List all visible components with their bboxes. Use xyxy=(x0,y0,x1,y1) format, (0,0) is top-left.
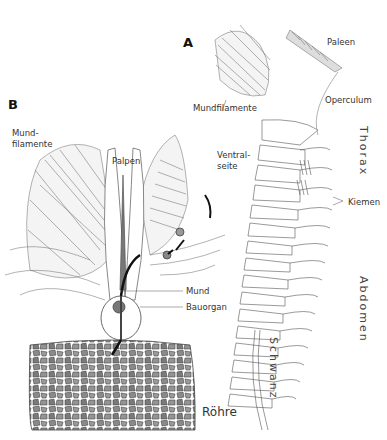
panel-a-crown xyxy=(215,25,342,135)
label-roehre: Röhre xyxy=(202,405,237,419)
label-ventralseite-2: seite xyxy=(217,161,238,171)
label-operculum: Operculum xyxy=(325,95,372,105)
label-mundfilamente-a: Mundfilamente xyxy=(193,103,257,113)
illustration xyxy=(0,0,387,440)
label-mundfilamente-b-1: Mund- xyxy=(12,128,39,138)
label-schwanz: Schwanz xyxy=(267,337,280,400)
label-ventralseite-1: Ventral- xyxy=(217,150,250,160)
label-bauorgan: Bauorgan xyxy=(186,302,227,312)
label-abdomen: Abdomen xyxy=(357,276,370,343)
panel-label-b: B xyxy=(8,97,18,112)
panel-label-a: A xyxy=(183,35,193,50)
label-paleen: Paleen xyxy=(327,37,355,47)
left-mouth-filaments xyxy=(5,144,108,300)
label-thorax: Thorax xyxy=(357,126,370,176)
label-palpen: Palpen xyxy=(112,156,140,166)
label-mundfilamente-b-2: filamente xyxy=(12,139,52,149)
panel-a-body xyxy=(228,120,332,430)
right-mouth-filaments xyxy=(140,135,225,275)
label-kiemen: Kiemen xyxy=(348,197,380,207)
label-mund: Mund xyxy=(186,286,210,296)
